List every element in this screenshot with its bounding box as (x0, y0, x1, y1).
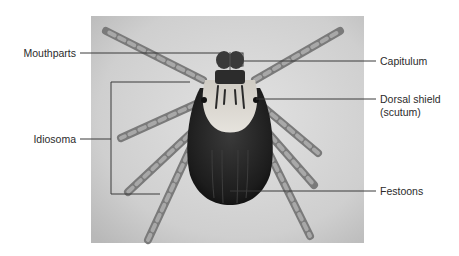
label-idiosoma: Idiosoma (10, 133, 76, 145)
label-scutum: (scutum) (380, 106, 421, 118)
eye-right (253, 97, 259, 103)
label-mouthparts: Mouthparts (10, 47, 76, 59)
tick-illustration (0, 0, 459, 256)
eye-left (201, 97, 207, 103)
tick-anatomy-diagram: Mouthparts Capitulum Dorsal shield (scut… (0, 0, 459, 256)
label-dorsal-shield: Dorsal shield (380, 93, 441, 105)
label-festoons: Festoons (380, 185, 423, 197)
label-capitulum: Capitulum (380, 55, 427, 67)
